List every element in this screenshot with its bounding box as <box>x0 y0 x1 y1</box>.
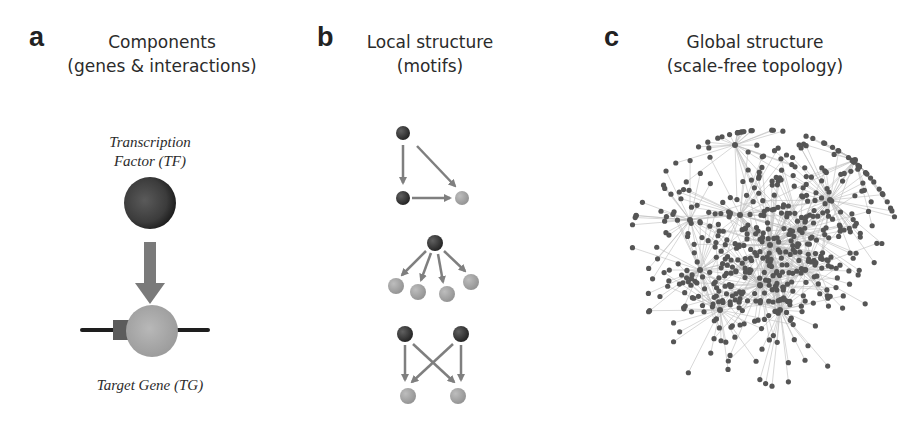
tg-node-icon <box>126 305 178 357</box>
regulation-arrow-icon <box>135 242 165 304</box>
figure-graphics <box>0 0 924 423</box>
motif-bi-fan <box>397 326 469 404</box>
motif-single-input-module <box>388 235 479 302</box>
scale-free-network <box>630 128 897 389</box>
motif-feed-forward-loop <box>396 126 469 205</box>
panel-a-diagram <box>82 177 208 357</box>
tf-node-icon <box>124 177 176 229</box>
